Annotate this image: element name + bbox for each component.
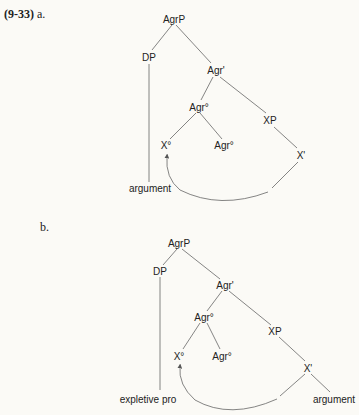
- node-agr0-lower: Agr°: [212, 351, 232, 362]
- node-agr0-upper: Agr°: [189, 102, 209, 113]
- node-agrp: AgrP: [168, 238, 190, 249]
- node-x0: X°: [174, 351, 185, 362]
- sub-label-a: a.: [37, 7, 45, 21]
- node-agrp: AgrP: [163, 14, 185, 25]
- leaf-argument: argument: [313, 394, 355, 405]
- example-label-b: b.: [40, 220, 49, 235]
- node-dp: DP: [142, 52, 156, 63]
- node-x0: X°: [161, 140, 172, 151]
- node-x-bar: X': [304, 363, 313, 374]
- node-agr-bar: Agr': [216, 280, 233, 291]
- node-xp: XP: [263, 115, 276, 126]
- sub-label-b: b.: [40, 220, 49, 234]
- node-xp: XP: [268, 326, 281, 337]
- example-number: (9-33): [4, 7, 34, 21]
- node-agr0-lower: Agr°: [214, 140, 234, 151]
- leaf-expletive-pro: expletive pro: [120, 394, 177, 405]
- node-agr0-upper: Agr°: [194, 312, 214, 323]
- node-agr-bar: Agr': [207, 65, 224, 76]
- node-dp: DP: [153, 266, 167, 277]
- leaf-argument: argument: [129, 183, 171, 194]
- example-label-a: (9-33) a.: [4, 7, 45, 22]
- node-x-bar: X': [297, 150, 306, 161]
